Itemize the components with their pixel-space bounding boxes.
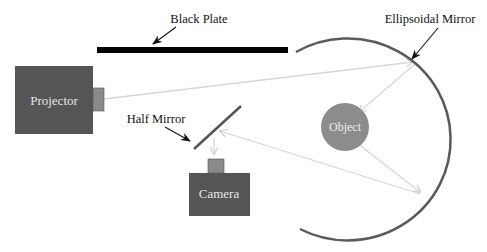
camera: Camera — [189, 159, 250, 216]
black-plate — [97, 47, 288, 53]
object: Object — [321, 103, 369, 151]
half-mirror-arrow — [165, 127, 190, 141]
projector-lens — [93, 88, 104, 111]
black-plate-arrow — [153, 27, 176, 44]
projector: Projector — [15, 66, 104, 134]
object-label: Object — [329, 120, 362, 134]
projector-label: Projector — [30, 93, 78, 108]
camera-lens — [208, 159, 224, 173]
ellipsoidal-mirror-label: Ellipsoidal Mirror — [385, 12, 476, 26]
half-mirror — [194, 106, 241, 149]
ellipsoidal-mirror-arrow — [412, 28, 438, 59]
optical-setup-diagram: Projector Camera Object Black Plate Elli… — [0, 0, 487, 252]
half-mirror-label: Half Mirror — [127, 112, 186, 126]
light-rays — [104, 62, 420, 194]
ray-mirror-to-object — [359, 64, 415, 112]
ray-projector-to-mirror — [104, 62, 413, 99]
camera-label: Camera — [199, 186, 240, 201]
annotations: Black Plate Ellipsoidal Mirror Half Mirr… — [127, 12, 476, 141]
ellipsoidal-mirror — [296, 38, 451, 240]
black-plate-label: Black Plate — [170, 12, 228, 26]
